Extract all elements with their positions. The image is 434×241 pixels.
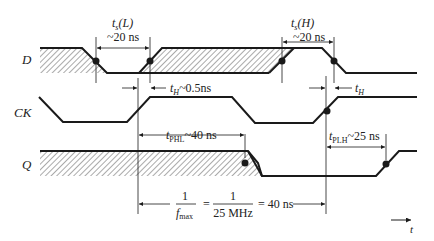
d-hatch-unknown-2 [139,48,294,73]
th-annotation-1: tH~0.5ns [122,81,212,97]
svg-text:tH: tH [355,81,365,97]
svg-text:fmax: fmax [176,206,193,221]
svg-text:tH~0.5ns: tH~0.5ns [170,81,212,97]
ts-low-annotation: ts(L) ~20 ns [97,16,149,48]
svg-text:= 40 ns: = 40 ns [258,197,294,211]
fmax-annotation: 1 fmax = 1 25 MHz = 40 ns [139,189,325,221]
svg-text:=: = [203,197,210,211]
ts-high-annotation: ts(H) ~20 ns [283,16,333,44]
timing-diagram: D CK Q [0,0,434,241]
signal-label-q: Q [22,157,32,172]
signal-label-d: D [21,52,32,67]
tplh-annotation: tPLH~25 ns [327,129,385,147]
svg-text:tPLH~25 ns: tPLH~25 ns [329,129,380,145]
q-hatch-unknown [40,151,262,176]
q-transition-dot [242,160,249,167]
svg-text:1: 1 [182,189,188,203]
ck-edge-dot [324,108,331,115]
tphl-annotation: tPHL~40 ns [139,128,244,144]
svg-text:1: 1 [230,189,236,203]
q-waveform [40,151,417,176]
svg-text:tPHL~40 ns: tPHL~40 ns [166,128,217,144]
d-waveform [40,48,417,73]
signal-label-ck: CK [14,105,33,120]
q-transition-dot [383,161,390,168]
svg-text:~20 ns: ~20 ns [107,30,139,44]
ck-waveform [39,97,417,123]
svg-text:t: t [410,223,414,235]
th-annotation-2: tH [309,81,365,97]
time-axis: t [391,220,414,235]
svg-text:25 MHz: 25 MHz [213,206,253,220]
